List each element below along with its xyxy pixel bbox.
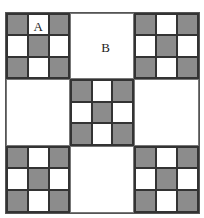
cell-plain [177, 168, 198, 190]
cell-shaded [49, 57, 70, 78]
block-top-right [134, 13, 199, 79]
block-bottom-left [6, 146, 70, 213]
cell-shaded [28, 168, 49, 190]
cell-shaded [156, 168, 177, 190]
cell-shaded [135, 190, 156, 212]
cell-shaded [28, 35, 49, 56]
cell-plain: A [28, 14, 49, 35]
cell-shaded [7, 57, 28, 78]
cell-plain [7, 168, 28, 190]
cell-plain [28, 57, 49, 78]
cell-plain [92, 80, 112, 101]
block-center [70, 79, 133, 145]
cell-shaded [177, 147, 198, 169]
block-top-left: A [6, 13, 70, 79]
cell-shaded [71, 123, 91, 144]
cell-shaded [71, 80, 91, 101]
cell-plain [135, 35, 156, 56]
block-bottom-center [70, 146, 133, 213]
label-b: B [101, 41, 110, 54]
label-a: A [33, 20, 42, 33]
cell-plain [177, 35, 198, 56]
cell-shaded [49, 147, 70, 169]
cell-shaded [49, 14, 70, 35]
cell-shaded [135, 147, 156, 169]
cell-shaded [7, 190, 28, 212]
cell-plain [156, 147, 177, 169]
cell-shaded [112, 123, 132, 144]
cell-plain [112, 102, 132, 123]
cell-shaded [49, 190, 70, 212]
cell-plain [7, 35, 28, 56]
cell-shaded [7, 14, 28, 35]
cell-shaded [135, 57, 156, 78]
cell-plain [28, 147, 49, 169]
cell-shaded [112, 80, 132, 101]
cell-plain [92, 123, 112, 144]
block-middle-left [6, 79, 70, 145]
cell-plain [156, 14, 177, 35]
cell-plain [28, 190, 49, 212]
block-middle-right [134, 79, 199, 145]
cell-plain [135, 168, 156, 190]
block-top-center: B [70, 13, 133, 79]
cell-plain [71, 102, 91, 123]
cell-plain [156, 190, 177, 212]
cell-plain [49, 35, 70, 56]
cell-shaded [92, 102, 112, 123]
cell-shaded [135, 14, 156, 35]
cell-plain [156, 57, 177, 78]
cell-shaded [177, 190, 198, 212]
cell-shaded [7, 147, 28, 169]
block-bottom-right [134, 146, 199, 213]
cell-shaded [177, 57, 198, 78]
cell-shaded [156, 35, 177, 56]
cell-plain [49, 168, 70, 190]
quilt-diagram: A B [5, 12, 200, 214]
cell-shaded [177, 14, 198, 35]
